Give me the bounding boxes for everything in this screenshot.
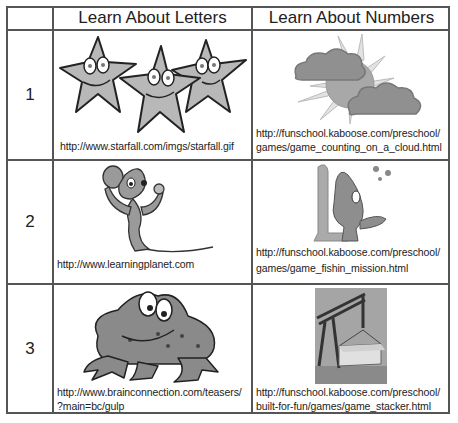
column-divider-1 — [52, 6, 54, 414]
fish-body — [333, 172, 363, 241]
star-left — [60, 37, 136, 112]
url-game-stacker[interactable]: http://funschool.kaboose.com/preschool/ — [256, 386, 440, 399]
url-counting-on-a-cloud-line2[interactable]: games/game_counting_on_a_cloud.html — [256, 141, 442, 154]
cartoon-mouse-image — [95, 163, 215, 259]
cloud-left — [295, 49, 365, 80]
url-starfall[interactable]: http://www.starfall.com/imgs/starfall.gi… — [60, 140, 234, 153]
url-fishin-mission[interactable]: http://funschool.kaboose.com/preschool/ — [256, 246, 440, 259]
sun-and-clouds-image — [290, 34, 430, 124]
row-number-1: 1 — [8, 31, 52, 159]
header-learn-about-letters: Learn About Letters — [54, 6, 251, 30]
cartoon-frog-image — [78, 286, 228, 386]
url-brainconnection-line2[interactable]: ?main=bc/gulp — [57, 400, 124, 413]
frog-leg-right — [174, 358, 218, 382]
row-divider-1 — [6, 159, 450, 161]
url-counting-on-a-cloud[interactable]: http://funschool.kaboose.com/preschool/ — [256, 127, 440, 140]
row-number-2: 2 — [8, 161, 52, 283]
column-divider-2 — [251, 6, 253, 414]
url-learningplanet[interactable]: http://www.learningplanet.com — [57, 258, 194, 271]
url-brainconnection[interactable]: http://www.brainconnection.com/teasers/ — [57, 386, 242, 399]
url-game-stacker-line2[interactable]: built-for-fun/games/game_stacker.html — [256, 400, 431, 413]
crane-photo-image — [315, 288, 387, 384]
star-middle — [120, 46, 200, 132]
mouse-tail — [145, 247, 213, 252]
smiling-stars-image — [58, 32, 250, 137]
url-fishin-mission-line2[interactable]: games/game_fishin_mission.html — [256, 262, 408, 275]
header-empty — [8, 7, 52, 29]
frog-leg-left — [84, 356, 128, 380]
row-number-3: 3 — [8, 285, 52, 413]
header-learn-about-numbers: Learn About Numbers — [253, 6, 450, 30]
row-divider-2 — [6, 283, 450, 285]
fish-with-number-one-image — [312, 163, 402, 243]
